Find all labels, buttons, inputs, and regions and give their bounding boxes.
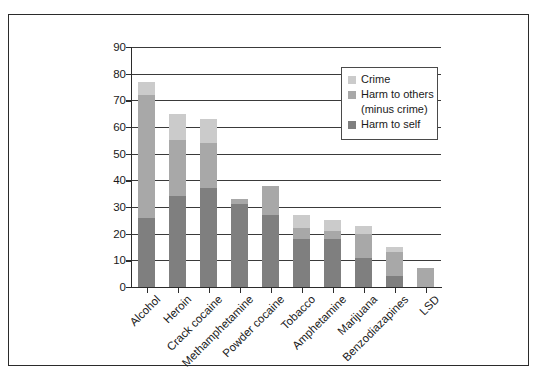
bar-tobacco[interactable] <box>293 215 310 287</box>
bar-benzodiazapines[interactable] <box>386 247 403 287</box>
y-axis-tick-label: 30 <box>113 201 126 213</box>
x-axis-tick-label-lsd: LSD <box>417 293 441 317</box>
bar-segment-harm-to-others-minus-crime <box>355 234 372 258</box>
bar-segment-crime <box>169 114 186 141</box>
y-axis-tick-label: 40 <box>113 174 126 186</box>
bar-segment-harm-to-others-minus-crime <box>138 95 155 218</box>
y-axis-tick-label: 50 <box>113 148 126 160</box>
bar-segment-crime <box>293 215 310 228</box>
bar-segment-harm-to-self <box>169 196 186 287</box>
bar-alcohol[interactable] <box>138 82 155 287</box>
bar-segment-harm-to-self <box>231 204 248 287</box>
x-axis-tick-labels: AlcoholHeroinCrack cocaineMethamphetamin… <box>131 293 471 363</box>
bar-powder-cocaine[interactable] <box>262 186 279 287</box>
x-axis-tick-label-alcohol: Alcohol <box>127 293 162 328</box>
bar-segment-harm-to-self <box>355 258 372 287</box>
bar-heroin[interactable] <box>169 114 186 287</box>
bar-segment-crime <box>324 220 341 231</box>
y-axis-tick-label: 60 <box>113 121 126 133</box>
bar-segment-harm-to-others-minus-crime <box>262 186 279 215</box>
legend-swatch-icon <box>348 121 356 129</box>
y-axis-tick-label: 80 <box>113 68 126 80</box>
y-axis-tick-label: 10 <box>113 254 126 266</box>
x-axis-tick-label-amphetamine: Amphetamine <box>289 293 348 352</box>
bar-crack-cocaine[interactable] <box>200 119 217 287</box>
legend-sublabel: (minus crime) <box>348 103 430 116</box>
bar-segment-harm-to-self <box>138 218 155 287</box>
legend-item: Harm to others <box>348 88 430 101</box>
bar-marijuana[interactable] <box>355 226 372 287</box>
bar-methamphetamine[interactable] <box>231 199 248 287</box>
bar-segment-harm-to-others-minus-crime <box>417 268 434 287</box>
bar-segment-harm-to-self <box>324 239 341 287</box>
y-axis-tick-label: 20 <box>113 228 126 240</box>
bar-segment-crime <box>355 226 372 234</box>
bar-amphetamine[interactable] <box>324 220 341 287</box>
bar-segment-harm-to-self <box>386 276 403 287</box>
bar-segment-harm-to-others-minus-crime <box>293 228 310 239</box>
legend-label: Crime <box>361 73 390 86</box>
bar-segment-harm-to-others-minus-crime <box>200 143 217 188</box>
legend-item: Harm to self <box>348 118 430 131</box>
bar-segment-crime <box>200 119 217 143</box>
bar-segment-harm-to-self <box>293 239 310 287</box>
bar-lsd[interactable] <box>417 268 434 287</box>
bar-segment-harm-to-others-minus-crime <box>231 199 248 204</box>
chart-legend: CrimeHarm to others(minus crime)Harm to … <box>341 67 438 140</box>
legend-label: Harm to self <box>361 118 420 131</box>
y-axis-tick-label: 90 <box>113 41 126 53</box>
chart-frame: 0102030405060708090 AlcoholHeroinCrack c… <box>8 14 529 366</box>
x-axis-tick-label-crack-cocaine: Crack cocaine <box>164 293 224 353</box>
y-axis-tick-label: 70 <box>113 94 126 106</box>
bar-segment-harm-to-others-minus-crime <box>324 231 341 239</box>
legend-label: Harm to others <box>361 88 434 101</box>
bar-segment-crime <box>386 247 403 252</box>
bar-segment-harm-to-others-minus-crime <box>386 252 403 276</box>
bar-segment-harm-to-others-minus-crime <box>169 140 186 196</box>
legend-swatch-icon <box>348 91 356 99</box>
bar-segment-harm-to-self <box>200 188 217 287</box>
bar-segment-crime <box>138 82 155 95</box>
y-axis-tick-labels: 0102030405060708090 <box>104 47 126 287</box>
legend-swatch-icon <box>348 76 356 84</box>
bar-segment-harm-to-self <box>262 215 279 287</box>
legend-item: Crime <box>348 73 430 86</box>
